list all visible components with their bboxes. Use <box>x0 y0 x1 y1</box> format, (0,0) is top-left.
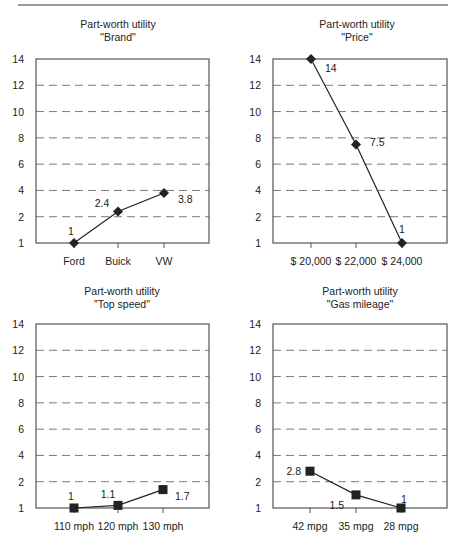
y-tick-label: 2 <box>18 476 24 488</box>
y-tick-label: 10 <box>12 106 24 118</box>
plot-frame <box>36 59 209 243</box>
plot-frame <box>36 324 209 508</box>
diamond-marker-icon <box>159 188 169 198</box>
data-label: 2.4 <box>95 197 110 209</box>
y-tick-label: 10 <box>249 106 261 118</box>
y-tick-label: 6 <box>255 423 261 435</box>
y-tick-label: 10 <box>12 371 24 383</box>
x-tick-label: Ford <box>63 255 85 267</box>
data-label: 7.5 <box>370 136 385 148</box>
y-tick-label: 1 <box>255 237 261 249</box>
data-label: 1 <box>68 225 74 237</box>
x-tick-label: $ 20,000 <box>291 255 332 267</box>
chart-subtitle: "Top speed" <box>94 298 150 310</box>
y-tick-label: 10 <box>249 371 261 383</box>
diamond-marker-icon <box>306 54 316 64</box>
data-label: 2.8 <box>286 465 301 477</box>
y-tick-label: 6 <box>18 423 24 435</box>
data-label: 1 <box>401 493 407 505</box>
x-tick-label: 110 mph <box>54 520 94 532</box>
chart-4: Part-worth utility"Gas mileage"124681012… <box>249 285 447 532</box>
y-tick-label: 2 <box>255 211 261 223</box>
diamond-marker-icon <box>397 238 407 248</box>
y-tick-label: 6 <box>18 158 24 170</box>
chart-1: Part-worth utility"Brand"12468101214Ford… <box>12 18 209 267</box>
chart-subtitle: "Price" <box>341 31 373 43</box>
y-tick-label: 1 <box>18 502 24 514</box>
chart-title: Part-worth utility <box>84 285 160 297</box>
y-tick-label: 1 <box>18 237 24 249</box>
square-marker-icon <box>114 501 123 510</box>
y-tick-label: 8 <box>255 132 261 144</box>
x-tick-label: $ 22,000 <box>336 255 377 267</box>
x-tick-label: 120 mph <box>98 520 139 532</box>
x-tick-label: Buick <box>105 255 131 267</box>
diamond-marker-icon <box>113 206 123 216</box>
square-marker-icon <box>70 504 79 513</box>
square-marker-icon <box>352 490 361 499</box>
square-marker-icon <box>306 467 315 476</box>
x-tick-label: $ 24,000 <box>382 255 423 267</box>
y-tick-label: 14 <box>249 53 261 65</box>
y-tick-label: 14 <box>12 53 24 65</box>
chart-title: Part-worth utility <box>80 18 156 30</box>
charts-canvas: Part-worth utility"Brand"12468101214Ford… <box>0 0 461 549</box>
data-label: 1 <box>399 223 405 235</box>
diamond-marker-icon <box>351 139 361 149</box>
plot-frame <box>273 59 447 243</box>
y-tick-label: 6 <box>255 158 261 170</box>
y-tick-label: 8 <box>18 132 24 144</box>
y-tick-label: 12 <box>249 344 261 356</box>
data-label: 1.7 <box>175 490 190 502</box>
square-marker-icon <box>159 485 168 494</box>
chart-subtitle: "Gas mileage" <box>327 298 394 310</box>
x-tick-label: 130 mph <box>143 520 184 532</box>
y-tick-label: 14 <box>249 318 261 330</box>
data-label: 3.8 <box>178 193 193 205</box>
y-tick-label: 4 <box>18 449 24 461</box>
y-tick-label: 4 <box>18 184 24 196</box>
x-tick-label: 42 mpg <box>292 520 327 532</box>
y-tick-label: 8 <box>18 397 24 409</box>
chart-title: Part-worth utility <box>322 285 398 297</box>
y-tick-label: 12 <box>12 344 24 356</box>
y-tick-label: 8 <box>255 397 261 409</box>
series-line <box>311 59 402 243</box>
y-tick-label: 1 <box>255 502 261 514</box>
series-line <box>310 471 401 508</box>
data-label: 1.1 <box>101 488 116 500</box>
chart-3: Part-worth utility"Top speed"12468101214… <box>12 285 209 532</box>
data-label: 1.5 <box>329 499 344 511</box>
y-tick-label: 4 <box>255 184 261 196</box>
data-label: 1 <box>68 490 74 502</box>
x-tick-label: VW <box>156 255 173 267</box>
x-tick-label: 28 mpg <box>383 520 418 532</box>
y-tick-label: 12 <box>249 79 261 91</box>
y-tick-label: 2 <box>255 476 261 488</box>
chart-title: Part-worth utility <box>319 18 395 30</box>
chart-subtitle: "Brand" <box>100 31 136 43</box>
chart-2: Part-worth utility"Price"12468101214$ 20… <box>249 18 447 267</box>
y-tick-label: 2 <box>18 211 24 223</box>
x-tick-label: 35 mpg <box>338 520 373 532</box>
data-label: 14 <box>325 62 337 74</box>
series-line <box>74 193 164 243</box>
y-tick-label: 12 <box>12 79 24 91</box>
plot-frame <box>273 324 447 508</box>
y-tick-label: 14 <box>12 318 24 330</box>
diamond-marker-icon <box>69 238 79 248</box>
y-tick-label: 4 <box>255 449 261 461</box>
